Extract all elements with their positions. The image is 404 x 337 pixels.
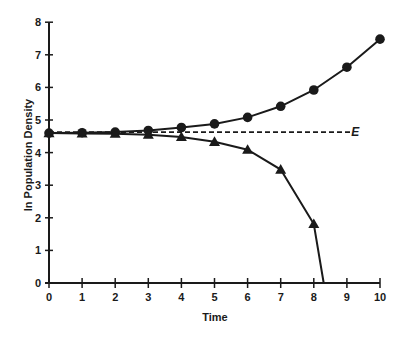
x-tick-label: 1 xyxy=(79,291,85,303)
triangle-marker xyxy=(275,164,286,174)
y-tick-label: 2 xyxy=(35,212,41,224)
y-axis-title: ln Population Density xyxy=(22,98,34,211)
increasing-series-line xyxy=(49,39,380,133)
x-tick-label: 0 xyxy=(46,291,52,303)
circle-marker xyxy=(210,119,220,129)
y-tick-label: 4 xyxy=(35,147,42,159)
circle-marker xyxy=(276,102,286,112)
population-density-chart: 012345678012345678910E Time ln Populatio… xyxy=(0,0,404,337)
y-tick-label: 5 xyxy=(35,114,41,126)
x-tick-label: 3 xyxy=(145,291,151,303)
x-tick-label: 10 xyxy=(374,291,386,303)
triangle-marker xyxy=(308,218,319,228)
x-axis-title: Time xyxy=(202,311,227,323)
y-tick-label: 6 xyxy=(35,81,41,93)
x-tick-label: 7 xyxy=(278,291,284,303)
circle-marker xyxy=(375,34,385,44)
y-tick-label: 3 xyxy=(35,179,41,191)
equilibrium-label-e: E xyxy=(351,125,360,139)
x-tick-label: 6 xyxy=(245,291,251,303)
x-tick-label: 9 xyxy=(344,291,350,303)
circle-marker xyxy=(177,123,187,133)
x-tick-label: 5 xyxy=(211,291,217,303)
circle-marker xyxy=(243,113,253,123)
x-tick-label: 4 xyxy=(178,291,185,303)
circle-marker xyxy=(309,85,319,95)
x-tick-label: 2 xyxy=(112,291,118,303)
y-tick-label: 0 xyxy=(35,277,41,289)
y-tick-label: 8 xyxy=(35,16,41,28)
circle-marker xyxy=(342,62,352,72)
y-tick-label: 1 xyxy=(35,244,41,256)
decreasing-series-line xyxy=(49,133,324,283)
plot-area: 012345678012345678910E xyxy=(35,16,386,303)
x-tick-label: 8 xyxy=(311,291,317,303)
y-tick-label: 7 xyxy=(35,49,41,61)
